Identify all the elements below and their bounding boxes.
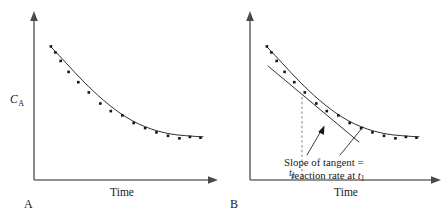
panel-a-x-axis-label: Time xyxy=(110,186,134,198)
panel-b-annotation-line2: reaction rate at t1 xyxy=(291,169,365,183)
figure-container: CA Time A xyxy=(0,0,447,213)
panel-b-annotation-leader xyxy=(340,127,363,155)
panel-a-fit-curve xyxy=(51,47,203,137)
panel-b-fit-curve xyxy=(267,47,419,137)
panel-b-x-axis-label: Time xyxy=(334,186,358,198)
panel-a-data-points xyxy=(50,45,202,140)
panel-b-annotation-line2-sub: 1 xyxy=(361,174,365,183)
panel-b-annotation-arrow xyxy=(307,126,325,156)
panel-a-y-axis xyxy=(30,11,38,180)
panel-a-y-axis-label-sub: A xyxy=(18,99,24,108)
panel-a-y-axis-label: CA xyxy=(10,93,24,108)
panel-a-x-axis xyxy=(34,176,218,184)
panel-b-letter: B xyxy=(230,197,238,211)
panel-b-data-points xyxy=(266,45,418,140)
panel-b-annotation-line2-prefix: reaction rate at xyxy=(291,169,358,181)
panel-a-letter: A xyxy=(24,197,33,211)
panel-b-tangent-line xyxy=(268,66,359,142)
panel-b-t1-tick-sub: 1 xyxy=(292,172,296,180)
panel-a-chart: CA Time A xyxy=(0,0,224,213)
panel-b-chart: Slope of tangent = reaction rate at t1 t… xyxy=(224,0,447,213)
panel-b-y-axis xyxy=(246,11,254,180)
panel-b-annotation-line1: Slope of tangent = xyxy=(284,156,364,168)
panel-a-y-axis-label-main: C xyxy=(10,93,18,105)
